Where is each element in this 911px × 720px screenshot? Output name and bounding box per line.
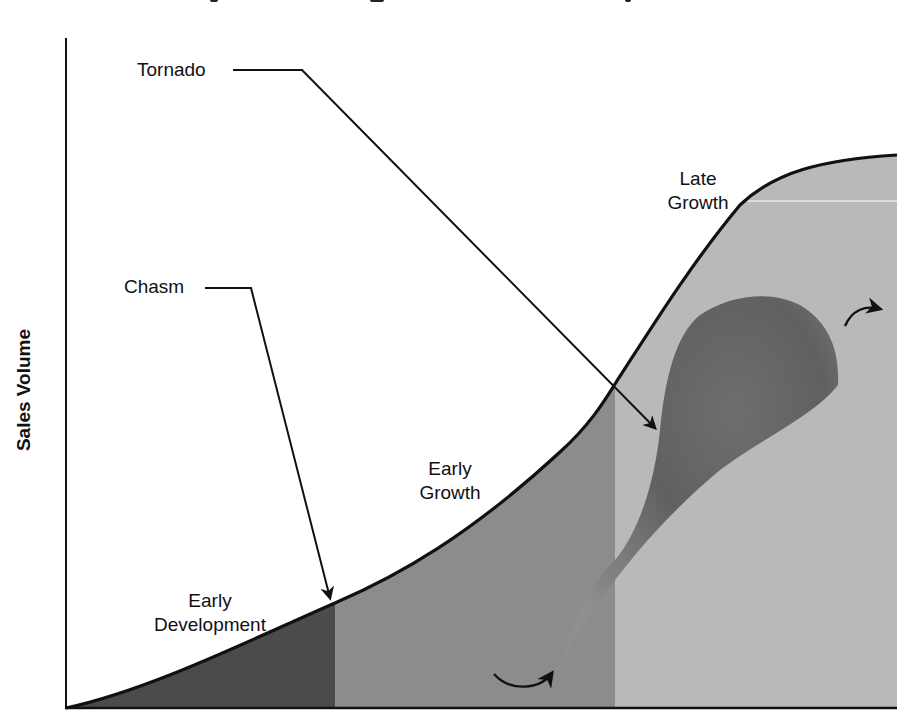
phase-label-line1: Late [648,167,748,191]
phase-label-line1: Early [400,457,500,481]
phase-early-growth-label: Early Growth [400,457,500,505]
phase-early-development-label: Early Development [150,589,270,637]
callout-tornado-label: Tornado [137,58,206,82]
phase-label-line1: Early [150,589,270,613]
callout-chasm-label: Chasm [124,275,184,299]
phase-early-growth-fill [335,100,615,708]
adoption-curve-diagram [0,0,911,720]
phase-late-growth-label: Late Growth [648,167,748,215]
phase-label-line2: Growth [648,191,748,215]
phase-label-line2: Development [150,613,270,637]
phase-label-line2: Growth [400,481,500,505]
y-axis-label: Sales Volume [13,310,35,470]
tornado-leader-arrow [233,70,655,428]
chasm-leader-arrow [205,288,330,598]
